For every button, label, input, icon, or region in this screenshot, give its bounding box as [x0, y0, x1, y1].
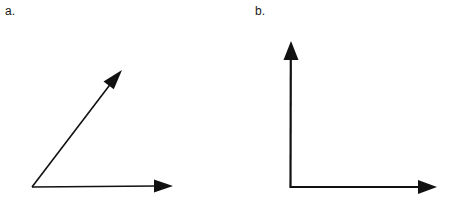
- worksheet-canvas: a. b.: [0, 0, 454, 209]
- figure-a-group: [32, 70, 173, 193]
- figure-a-horizontal-ray-line: [32, 186, 157, 187]
- figures-drawing: [0, 0, 454, 209]
- figure-b-group: [284, 41, 438, 194]
- figure-b-horizontal-arrowhead-icon: [418, 180, 437, 194]
- figure-a-horizontal-arrowhead-icon: [154, 180, 173, 193]
- figure-a-diagonal-arrowhead-icon: [104, 70, 123, 89]
- figure-b-vertical-arrowhead-icon: [284, 41, 299, 60]
- figure-a-diagonal-ray-line: [32, 84, 111, 187]
